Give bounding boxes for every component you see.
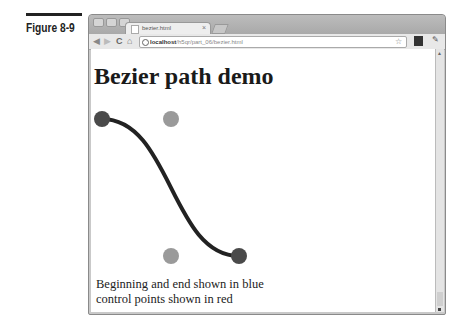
- scroll-down-arrow[interactable]: [438, 308, 441, 311]
- url-path: /h5qr/part_06/bezier.html: [176, 39, 242, 45]
- minimize-window-button[interactable]: [106, 18, 117, 27]
- figure-rule: [26, 13, 82, 16]
- toolbar: ◀ ▶ C ⌂ localhost/h5qr/part_06/bezier.ht…: [89, 34, 445, 50]
- bezier-canvas: [91, 49, 436, 312]
- tab-bezier[interactable]: bezier.html ×: [125, 22, 211, 34]
- scroll-thumb[interactable]: [437, 292, 443, 306]
- page-icon: [131, 25, 139, 34]
- tab-close-icon[interactable]: ×: [202, 24, 206, 31]
- browser-window: bezier.html × ◀ ▶ C ⌂ localhost/h5qr/par…: [88, 14, 446, 315]
- page-menu-icon[interactable]: [414, 36, 423, 46]
- caption-line-1: Beginning and end shown in blue: [96, 277, 264, 292]
- start-point: [94, 111, 110, 127]
- title-bar: bezier.html ×: [89, 15, 445, 34]
- wrench-icon[interactable]: ✎: [432, 35, 439, 44]
- back-button[interactable]: ◀: [93, 36, 100, 46]
- scroll-up-arrow[interactable]: ▲: [437, 50, 442, 56]
- url-host: localhost: [150, 39, 176, 45]
- bezier-curve: [102, 119, 239, 256]
- globe-icon: [142, 39, 149, 46]
- end-point: [231, 248, 247, 264]
- bookmark-star-icon[interactable]: ☆: [395, 37, 402, 47]
- close-window-button[interactable]: [93, 18, 104, 27]
- caption: Beginning and end shown in blue control …: [96, 277, 264, 307]
- reload-button[interactable]: C: [116, 36, 123, 46]
- address-bar[interactable]: localhost/h5qr/part_06/bezier.html ☆: [139, 36, 407, 48]
- new-tab-button[interactable]: [211, 24, 229, 34]
- caption-line-2: control points shown in red: [96, 292, 264, 307]
- vertical-scrollbar[interactable]: ▲: [435, 49, 444, 312]
- page-content: Bezier path demo Beginning and end shown…: [91, 49, 436, 312]
- control-point-2: [163, 248, 179, 264]
- home-button[interactable]: ⌂: [127, 36, 132, 46]
- figure-label: Figure 8-9: [26, 21, 75, 35]
- forward-button[interactable]: ▶: [104, 36, 111, 46]
- tab-title: bezier.html: [142, 25, 171, 31]
- control-point-1: [163, 111, 179, 127]
